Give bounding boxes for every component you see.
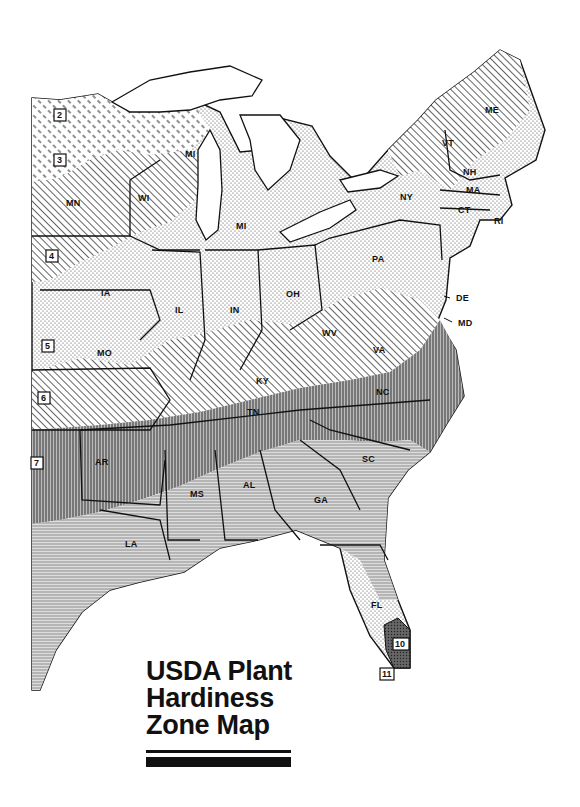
zone-label-6: 6 (38, 392, 50, 404)
zone-label-5: 5 (42, 340, 54, 352)
state-fl: FL (371, 600, 383, 610)
state-vt: VT (442, 138, 454, 148)
title-line-3: Zone Map (146, 712, 292, 739)
state-ri: RI (494, 216, 504, 226)
title-rule-thick (146, 757, 291, 767)
state-sc: SC (362, 454, 375, 464)
svg-text:10: 10 (395, 639, 405, 649)
state-mo: MO (97, 348, 112, 358)
state-de: DE (456, 293, 469, 303)
state-tn: TN (247, 407, 260, 417)
title-line-2: Hardiness (146, 685, 292, 712)
state-ms: MS (190, 489, 204, 499)
zone-label-4: 4 (46, 250, 58, 262)
lake-michigan (196, 130, 222, 240)
state-wi: WI (138, 193, 150, 203)
state-al: AL (243, 480, 256, 490)
state-ar: AR (95, 457, 109, 467)
state-mi-upper: MI (185, 149, 196, 159)
state-pa: PA (372, 254, 385, 264)
state-mi: MI (236, 221, 247, 231)
state-mn: MN (66, 198, 81, 208)
title-rule-thin (146, 750, 291, 753)
state-il: IL (175, 305, 184, 315)
svg-text:7: 7 (34, 458, 39, 468)
state-nh: NH (463, 167, 477, 177)
svg-text:4: 4 (49, 251, 54, 261)
svg-text:5: 5 (45, 341, 50, 351)
state-wv: WV (322, 328, 337, 338)
zone-label-2: 2 (54, 109, 66, 121)
state-ky: KY (256, 376, 269, 386)
zone-label-10: 10 (393, 638, 409, 650)
svg-text:3: 3 (57, 155, 62, 165)
zone-label-3: 3 (54, 154, 66, 166)
state-ia: IA (101, 288, 111, 298)
zone-label-7: 7 (31, 457, 43, 469)
state-md: MD (458, 318, 473, 328)
state-oh: OH (286, 289, 300, 299)
title-line-1: USDA Plant (146, 658, 292, 685)
state-nc: NC (376, 387, 390, 397)
svg-text:6: 6 (41, 393, 46, 403)
lake-superior (112, 66, 262, 112)
state-ma: MA (466, 185, 481, 195)
state-me: ME (485, 105, 499, 115)
state-la: LA (125, 539, 138, 549)
svg-text:2: 2 (57, 110, 62, 120)
map-title: USDA Plant Hardiness Zone Map (146, 658, 292, 739)
state-ga: GA (314, 495, 328, 505)
state-ct: CT (458, 205, 471, 215)
zone-label-11: 11 (380, 668, 394, 680)
state-ny: NY (400, 192, 413, 202)
state-in: IN (230, 305, 240, 315)
state-va: VA (373, 345, 386, 355)
svg-text:11: 11 (382, 669, 392, 679)
